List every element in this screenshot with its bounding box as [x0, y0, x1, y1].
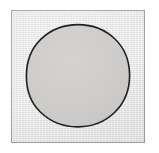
- figure-canvas: [0, 0, 159, 153]
- shaded-circle-fill: [27, 25, 130, 128]
- figure-svg: [0, 0, 159, 153]
